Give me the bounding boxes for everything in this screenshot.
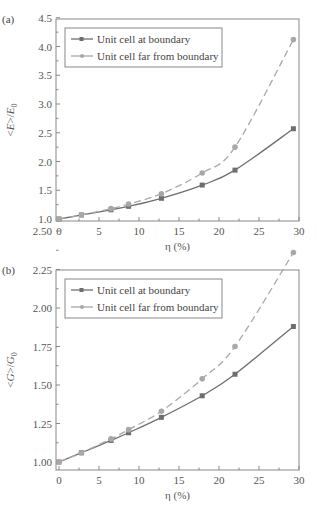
data-point-circle <box>291 250 297 256</box>
x-tick-label: 10 <box>134 474 146 486</box>
figure: (a)051015202530η (%)1.01.52.02.53.03.54.… <box>0 0 317 517</box>
y-tick-label: 3.5 <box>38 69 52 81</box>
data-point-circle <box>108 436 114 442</box>
y-tick-label: 2.5 <box>38 127 52 139</box>
data-point-square <box>200 183 205 188</box>
y-tick-label: 2.0 <box>38 156 52 168</box>
x-axis-label: η (%) <box>165 240 190 253</box>
y-tick-label: 4.5 <box>38 12 52 24</box>
y-tick-label: 1.0 <box>38 213 52 225</box>
data-point-square <box>291 126 296 131</box>
legend-square-icon <box>80 288 84 292</box>
data-point-circle <box>126 201 132 207</box>
x-tick-label: 10 <box>134 225 146 237</box>
x-tick-label: 25 <box>254 225 266 237</box>
x-tick-label: 15 <box>174 225 186 237</box>
x-tick-label: 5 <box>96 474 102 486</box>
y-axis-label: <G>/G0 <box>4 352 19 387</box>
legend-square-icon <box>80 37 84 41</box>
chart-b: (b)051015202530η (%)1.001.251.501.752.00… <box>2 225 305 502</box>
y-axis-label: <E>/E0 <box>4 104 19 137</box>
series-line-boundary <box>59 129 293 219</box>
legend-entry: Unit cell at boundary <box>97 33 191 45</box>
data-point-circle <box>232 344 238 350</box>
data-point-circle <box>79 450 85 456</box>
x-tick-label: 20 <box>214 474 226 486</box>
x-tick-label: 20 <box>214 225 226 237</box>
data-point-circle <box>159 408 165 414</box>
panel-label: (b) <box>2 264 15 277</box>
data-point-circle <box>126 427 132 433</box>
legend: Unit cell at boundaryUnit cell far from … <box>65 279 222 318</box>
data-point-circle <box>56 459 62 465</box>
y-tick-label: 1.00 <box>33 456 53 468</box>
legend: Unit cell at boundaryUnit cell far from … <box>65 28 222 67</box>
data-point-square <box>200 393 205 398</box>
y-tick-label: 2.25 <box>33 264 53 276</box>
data-point-square <box>159 415 164 420</box>
chart-a: (a)051015202530η (%)1.01.52.02.53.03.54.… <box>2 12 305 253</box>
y-tick-label: 1.25 <box>33 418 53 430</box>
legend-entry: Unit cell at boundary <box>97 284 191 296</box>
y-tick-label: 4.0 <box>38 41 52 53</box>
x-tick-label: 25 <box>254 474 266 486</box>
data-point-square <box>159 196 164 201</box>
data-point-circle <box>199 376 205 382</box>
data-point-square <box>291 324 296 329</box>
panel-label: (a) <box>2 13 15 26</box>
series-line-boundary <box>59 326 293 462</box>
y-tick-label: 2.00 <box>33 302 53 314</box>
data-point-circle <box>56 216 62 222</box>
y-tick-label: 3.0 <box>38 98 52 110</box>
legend-entry: Unit cell far from boundary <box>97 50 219 62</box>
data-point-square <box>233 168 238 173</box>
data-point-circle <box>108 206 114 212</box>
data-point-square <box>233 372 238 377</box>
x-tick-label: 30 <box>294 474 306 486</box>
y-tick-label: 1.50 <box>33 379 53 391</box>
legend-circle-icon <box>80 54 84 58</box>
y-tick-label: 2.50 <box>33 225 53 237</box>
x-tick-label: 5 <box>96 225 102 237</box>
y-tick-label: 1.75 <box>33 341 53 353</box>
data-point-circle <box>159 191 165 197</box>
x-tick-label: 15 <box>174 474 186 486</box>
legend-circle-icon <box>80 305 84 309</box>
legend-entry: Unit cell far from boundary <box>97 301 219 313</box>
x-tick-label: 0 <box>56 474 62 486</box>
data-point-circle <box>291 37 297 43</box>
data-point-circle <box>232 144 238 150</box>
data-point-circle <box>199 170 205 176</box>
x-axis-label: η (%) <box>165 489 190 502</box>
y-tick-label: 1.5 <box>38 184 52 196</box>
x-tick-label: 30 <box>294 225 306 237</box>
data-point-circle <box>79 212 85 218</box>
